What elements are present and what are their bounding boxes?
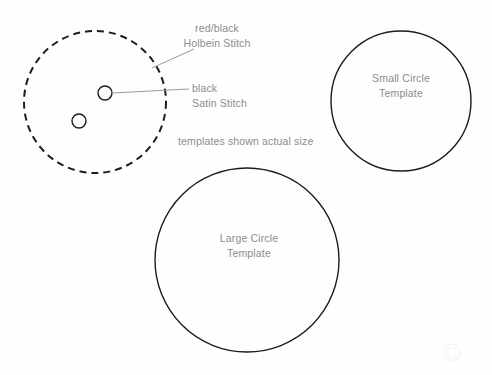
small-circle-label-line-2: Template: [372, 86, 430, 101]
satin-label-line-2: Satin Stitch: [192, 96, 247, 111]
actual-size-note: templates shown actual size: [178, 134, 313, 149]
diagram-graphics: [0, 0, 492, 375]
satin-label-line-1: black: [192, 81, 247, 96]
satin-stitch-label: black Satin Stitch: [192, 81, 247, 110]
holbein-label-line-2: Holbein Stitch: [184, 36, 251, 51]
large-circle-template-label: Large Circle Template: [220, 231, 278, 260]
holbein-label-line-1: red/black: [184, 21, 251, 36]
dashed-outer-circle: [24, 31, 166, 173]
large-circle-label-line-2: Template: [220, 246, 278, 261]
small-circle-template-label: Small Circle Template: [372, 71, 430, 100]
small-circle-template: [331, 31, 471, 171]
diagram-canvas: red/black Holbein Stitch black Satin Sti…: [0, 0, 492, 375]
upper-small-circle: [98, 86, 112, 100]
satin-leader-line: [112, 89, 189, 93]
small-circle-label-line-1: Small Circle: [372, 71, 430, 86]
lower-small-circle: [72, 114, 86, 128]
holbein-leader-line: [152, 49, 194, 68]
large-circle-label-line-1: Large Circle: [220, 231, 278, 246]
large-circle-template: [155, 168, 339, 352]
holbein-stitch-label: red/black Holbein Stitch: [184, 21, 251, 50]
